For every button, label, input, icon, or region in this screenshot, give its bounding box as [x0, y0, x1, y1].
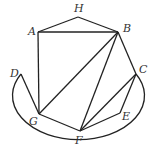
segment-BC [118, 32, 136, 74]
label-F: F [74, 134, 83, 147]
label-A: A [27, 25, 36, 38]
diagram-svg: AHBCDGFE [0, 0, 154, 150]
label-H: H [73, 2, 84, 15]
label-D: D [9, 67, 19, 80]
segment-HB [78, 17, 118, 32]
label-B: B [122, 22, 131, 35]
label-G: G [29, 115, 38, 128]
segments [21, 17, 136, 131]
label-E: E [121, 110, 130, 123]
segment-DG [21, 74, 39, 114]
segment-AG [38, 32, 39, 114]
segment-BG [39, 32, 118, 114]
segment-AH [38, 17, 78, 32]
geometry-diagram: AHBCDGFE [0, 0, 154, 150]
label-C: C [139, 63, 148, 76]
segment-GF [39, 114, 80, 131]
segment-CE [120, 74, 136, 113]
